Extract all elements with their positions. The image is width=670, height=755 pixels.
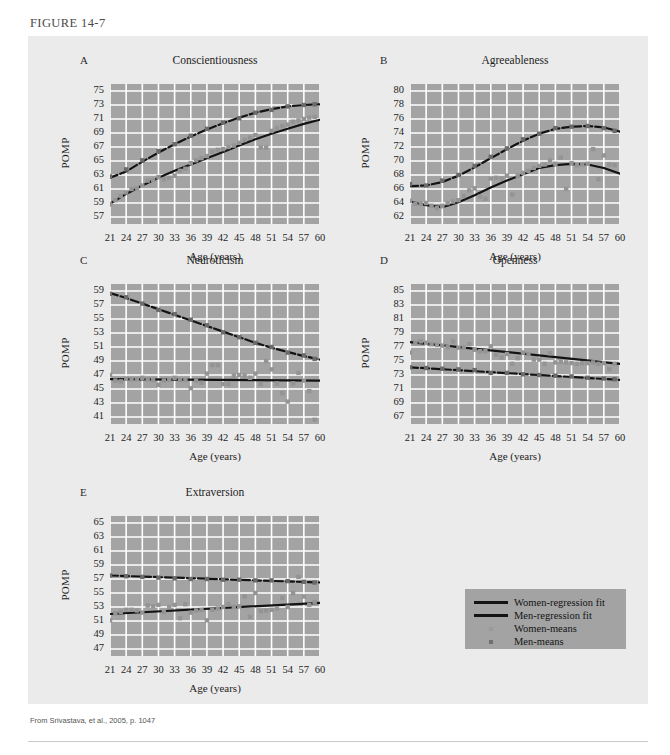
- y-axis-label: POMP: [359, 123, 371, 183]
- y-axis-tick: 67: [76, 140, 104, 151]
- legend-swatch-line: [473, 596, 509, 609]
- legend-swatch-marker: [473, 622, 509, 635]
- y-axis-label: POMP: [359, 323, 371, 383]
- gridlines: [110, 516, 320, 656]
- bottom-divider: [28, 741, 648, 742]
- figure-number-label: FIGURE 14-7: [30, 16, 106, 31]
- men-means-markers: [110, 292, 317, 362]
- y-axis-tick: 69: [76, 126, 104, 137]
- legend-item-men-means: Men-means: [473, 635, 564, 648]
- plot-canvas: [110, 284, 320, 424]
- y-axis-tick: 72: [376, 140, 404, 151]
- plot-canvas: [410, 84, 620, 224]
- y-axis-tick: 41: [76, 410, 104, 421]
- panel-letter: B: [380, 54, 387, 66]
- y-axis-tick: 59: [76, 558, 104, 569]
- plot-area: [110, 516, 320, 656]
- plot-canvas: [110, 84, 320, 224]
- plot-canvas: [110, 516, 320, 656]
- chart-panel-a: AConscientiousnessPOMPAge (years)5759616…: [58, 54, 332, 270]
- men-means-markers: [110, 102, 317, 179]
- y-axis-tick: 43: [76, 396, 104, 407]
- legend-label: Women-regression fit: [514, 597, 605, 608]
- y-axis-tick: 61: [76, 544, 104, 555]
- panel-title: Openness: [410, 254, 620, 266]
- legend-label: Women-means: [514, 623, 577, 634]
- panel-title: Agreeableness: [410, 54, 620, 66]
- panel-title: Conscientiousness: [110, 54, 320, 66]
- y-axis-tick: 68: [376, 168, 404, 179]
- y-axis-tick: 64: [376, 196, 404, 207]
- y-axis-tick: 47: [76, 642, 104, 653]
- y-axis-tick: 81: [376, 312, 404, 323]
- legend-swatch-line: [473, 609, 509, 622]
- x-axis-tick: 60: [609, 232, 631, 243]
- y-axis-label: POMP: [59, 555, 71, 615]
- gridlines: [410, 84, 620, 224]
- y-axis-tick: 57: [76, 572, 104, 583]
- y-axis-tick: 53: [76, 326, 104, 337]
- legend-item-women-means: Women-means: [473, 622, 577, 635]
- y-axis-tick: 69: [376, 396, 404, 407]
- x-axis-tick: 60: [309, 664, 331, 675]
- panel-title: Extraversion: [110, 486, 320, 498]
- panel-title: Neuroticism: [110, 254, 320, 266]
- plot-canvas: [410, 284, 620, 424]
- plot-area: [110, 284, 320, 424]
- women-means-markers: [110, 359, 317, 422]
- figure-page: FIGURE 14-7 AConscientiousnessPOMPAge (y…: [0, 0, 670, 755]
- legend-item-men-regression-fit: Men-regression fit: [473, 609, 592, 622]
- y-axis-tick: 73: [376, 368, 404, 379]
- x-axis-label: Age (years): [410, 450, 620, 462]
- y-axis-tick: 76: [376, 112, 404, 123]
- legend-item-women-regression-fit: Women-regression fit: [473, 596, 605, 609]
- y-axis-tick: 75: [76, 84, 104, 95]
- legend-line-swatch: [474, 601, 508, 604]
- y-axis-tick: 57: [76, 210, 104, 221]
- chart-panel-e: EExtraversionPOMPAge (years)474951535557…: [58, 486, 332, 702]
- y-axis-tick: 73: [76, 98, 104, 109]
- y-axis-tick: 55: [76, 586, 104, 597]
- y-axis-tick: 71: [76, 112, 104, 123]
- y-axis-tick: 59: [76, 196, 104, 207]
- y-axis-tick: 65: [76, 516, 104, 527]
- chart-panel-b: BAgreeablenessPOMPAge (years)62646668707…: [358, 54, 632, 270]
- y-axis-tick: 70: [376, 154, 404, 165]
- chart-panel-d: DOpennessPOMPAge (years)6769717375777981…: [358, 254, 632, 470]
- women-regression-fit-line: [410, 164, 620, 207]
- panel-letter: A: [80, 54, 88, 66]
- legend-square-swatch: [489, 640, 493, 644]
- y-axis-tick: 51: [76, 340, 104, 351]
- x-axis-label: Age (years): [110, 450, 320, 462]
- figure-body: AConscientiousnessPOMPAge (years)5759616…: [28, 36, 648, 704]
- x-axis-tick: 60: [309, 432, 331, 443]
- chart-panel-c: CNeuroticismPOMPAge (years)4143454749515…: [58, 254, 332, 470]
- y-axis-tick: 59: [76, 284, 104, 295]
- source-note: From Srivastava, et al., 2005, p. 1047: [30, 716, 155, 725]
- y-axis-label: POMP: [59, 123, 71, 183]
- y-axis-tick: 49: [76, 628, 104, 639]
- y-axis-tick: 61: [76, 182, 104, 193]
- y-axis-tick: 51: [76, 614, 104, 625]
- y-axis-tick: 49: [76, 354, 104, 365]
- y-axis-tick: 65: [76, 154, 104, 165]
- legend: Women-regression fitMen-regression fitWo…: [465, 589, 626, 649]
- y-axis-tick: 80: [376, 84, 404, 95]
- y-axis-tick: 67: [376, 410, 404, 421]
- men-regression-fit-line: [110, 104, 320, 178]
- y-axis-tick: 74: [376, 126, 404, 137]
- plot-area: [110, 84, 320, 224]
- y-axis-tick: 77: [376, 340, 404, 351]
- x-axis-label: Age (years): [110, 682, 320, 694]
- y-axis-tick: 78: [376, 98, 404, 109]
- y-axis-tick: 47: [76, 368, 104, 379]
- x-axis-tick: 60: [309, 232, 331, 243]
- x-axis-tick: 60: [609, 432, 631, 443]
- y-axis-tick: 63: [76, 168, 104, 179]
- plot-area: [410, 84, 620, 224]
- panel-letter: E: [80, 486, 87, 498]
- y-axis-tick: 45: [76, 382, 104, 393]
- y-axis-tick: 63: [76, 530, 104, 541]
- legend-label: Men-regression fit: [514, 610, 592, 621]
- panel-letter: D: [380, 254, 388, 266]
